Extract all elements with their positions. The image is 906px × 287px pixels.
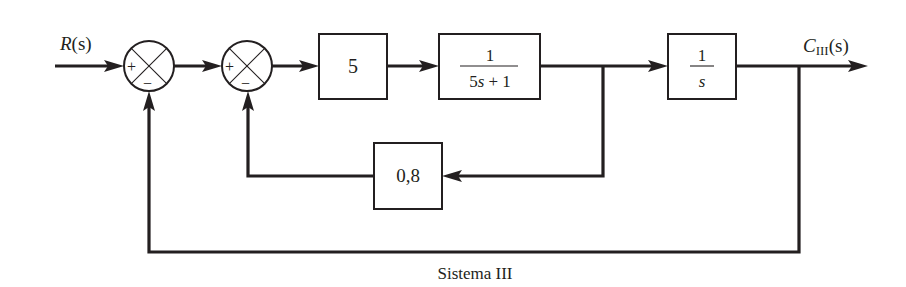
output-label-main: C [803, 35, 816, 56]
denominator-rest: + 1 [484, 72, 511, 91]
sum1-plus-sign: + [127, 58, 136, 75]
input-label-arg: (s) [72, 33, 92, 55]
sum2-minus-sign: − [241, 75, 250, 92]
integrator-block: 1 s [668, 34, 736, 99]
summing-junction-2: + − [222, 41, 272, 92]
sum2-plus-sign: + [225, 58, 234, 75]
inner-feedback-path-left [248, 101, 374, 176]
integrator-denominator: s [699, 72, 706, 91]
output-label-sub: III [816, 43, 829, 58]
diagram-caption: Sistema III [437, 264, 512, 283]
input-label: R(s) [59, 33, 92, 55]
integrator-numerator: 1 [698, 46, 707, 65]
feedback-gain-block: 0,8 [374, 143, 442, 209]
summing-junction-1: + − [124, 41, 174, 92]
output-label: CIII(s) [803, 35, 849, 58]
sum1-minus-sign: − [143, 75, 152, 92]
first-order-numerator: 1 [486, 46, 495, 65]
first-order-denominator: 5s + 1 [469, 72, 511, 91]
denominator-coef: 5 [469, 72, 478, 91]
gain-block-5: 5 [319, 34, 387, 99]
gain-block-5-label: 5 [348, 55, 358, 77]
output-label-arg: (s) [829, 35, 849, 57]
first-order-block: 1 5s + 1 [439, 34, 540, 99]
feedback-gain-label: 0,8 [396, 165, 420, 186]
block-diagram: R(s) + − + − 5 1 5s + 1 [0, 0, 906, 287]
input-label-main: R [59, 33, 72, 54]
